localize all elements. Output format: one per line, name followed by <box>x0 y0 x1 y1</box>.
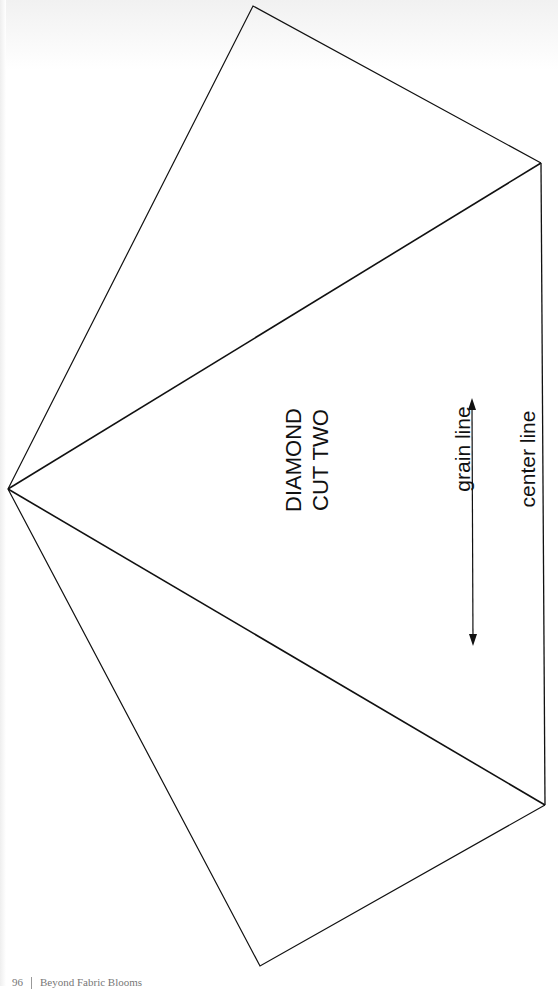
grain-arrow-down-icon <box>469 634 477 646</box>
page-footer: 96Beyond Fabric Blooms <box>12 976 142 989</box>
pattern-title-line2: CUT TWO <box>307 400 334 520</box>
grain-line-label: grain line <box>450 389 476 509</box>
book-title: Beyond Fabric Blooms <box>40 976 142 988</box>
outer-outline-bottom <box>8 489 545 966</box>
center-line-label: center line <box>515 394 541 524</box>
pattern-title: DIAMOND CUT TWO <box>280 400 340 520</box>
center-line <box>541 163 545 805</box>
page-number: 96 <box>12 976 23 988</box>
footer-divider <box>31 977 32 989</box>
inner-lower-edge <box>8 489 545 805</box>
pattern-title-line1: DIAMOND <box>280 400 307 520</box>
